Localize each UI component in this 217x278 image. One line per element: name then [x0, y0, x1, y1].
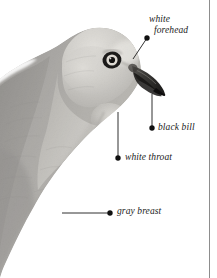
dove-illustration [0, 0, 217, 278]
annotation-label-white-forehead-line2: forehead [154, 25, 188, 36]
column-rule [209, 0, 210, 278]
eye-catchlight [110, 58, 112, 60]
bird-figure: white forehead black bill white throat g… [0, 0, 217, 278]
annotation-label-white-forehead-line1: white [149, 14, 170, 24]
annotation-label-white-throat: white throat [125, 152, 172, 163]
annotation-label-gray-breast-line1: gray breast [117, 206, 161, 216]
annotation-label-white-forehead: white forehead [149, 14, 188, 36]
annotation-label-black-bill-line1: black bill [158, 122, 195, 132]
annotation-label-white-throat-line1: white throat [125, 152, 172, 162]
annotation-label-gray-breast: gray breast [117, 206, 161, 217]
annotation-label-black-bill: black bill [158, 122, 195, 133]
